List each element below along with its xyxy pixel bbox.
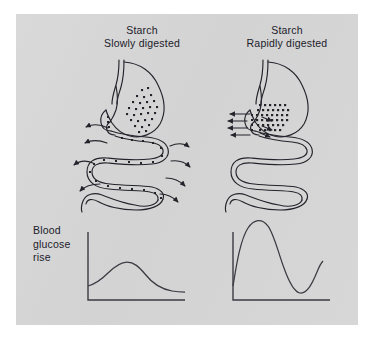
figure-root: Starch Slowly digested Starch Rapidly di… bbox=[0, 0, 374, 339]
left-esophagus-line-b bbox=[117, 60, 124, 104]
right-panel-title: Starch Rapidly digested bbox=[222, 24, 352, 50]
right-intestine-wall-inner bbox=[231, 136, 307, 200]
diagram-artwork bbox=[0, 0, 374, 339]
right-pylorus-inner bbox=[251, 122, 259, 135]
blood-glucose-line2: glucose bbox=[33, 238, 95, 252]
left-absorption-arrows-right bbox=[160, 144, 190, 202]
left-digestive-tract bbox=[81, 60, 168, 212]
right-absorption-arrows-left bbox=[228, 114, 250, 135]
left-title-line2: Slowly digested bbox=[82, 37, 202, 50]
arrow-left-4 bbox=[80, 184, 100, 191]
arrow-right-3 bbox=[166, 178, 185, 186]
blood-glucose-line1: Blood bbox=[33, 224, 95, 238]
arrow-left-2 bbox=[85, 141, 107, 143]
blood-glucose-rise-label: Blood glucose rise bbox=[33, 224, 95, 265]
left-glucose-graph bbox=[88, 232, 185, 300]
left-glucose-curve bbox=[88, 262, 185, 292]
arrow-left-1 bbox=[86, 125, 108, 128]
left-panel-title: Starch Slowly digested bbox=[82, 24, 202, 50]
left-intestine-wall-inner bbox=[87, 136, 163, 200]
right-graph-axes bbox=[233, 232, 330, 300]
right-intestine-lower-outer bbox=[230, 199, 307, 210]
right-esophagus-line-b bbox=[261, 60, 268, 104]
right-title-line2: Rapidly digested bbox=[222, 37, 352, 50]
right-glucose-graph bbox=[233, 221, 330, 300]
left-intestine-lower-outer bbox=[86, 199, 163, 210]
arrow-right-1 bbox=[170, 144, 189, 147]
blood-glucose-line3: rise bbox=[33, 251, 95, 265]
right-glucose-curve bbox=[233, 221, 323, 293]
left-title-line1: Starch bbox=[82, 24, 202, 37]
right-title-line1: Starch bbox=[222, 24, 352, 37]
arrow-right-2 bbox=[171, 161, 190, 167]
